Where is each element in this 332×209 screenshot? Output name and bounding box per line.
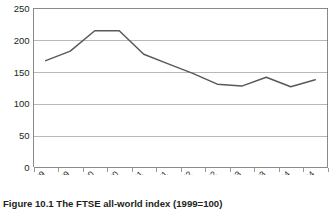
x-axis-tick-label: Jan 03 xyxy=(218,169,243,175)
y-axis-tick-labels: 050100150200250 xyxy=(14,3,30,173)
x-axis-tick-labels: Jan 99July 99Jan 00July 00Jan 01July 01J… xyxy=(22,169,317,175)
y-axis-tick-label: 200 xyxy=(14,35,30,46)
x-axis-tick-label: Jan 00 xyxy=(71,169,96,175)
x-axis-tick-label: Jan 04 xyxy=(267,169,292,175)
gridlines xyxy=(34,41,328,136)
figure-ftse-all-world-index: 050100150200250 Jan 99July 99Jan 00July … xyxy=(0,0,332,209)
x-axis-tick-label: Jan 01 xyxy=(120,169,145,175)
y-axis-tick-label: 150 xyxy=(14,67,30,78)
y-axis-tick-label: 0 xyxy=(24,162,29,173)
series-line-ftse-all-world-index xyxy=(46,31,316,87)
figure-caption: Figure 10.1 The FTSE all-world index (19… xyxy=(3,198,329,209)
x-axis-tick-label: Jan 02 xyxy=(169,169,194,175)
y-axis-tick-label: 250 xyxy=(14,3,30,14)
line-chart: 050100150200250 Jan 99July 99Jan 00July … xyxy=(0,0,332,175)
y-axis-tick-label: 100 xyxy=(14,98,30,109)
y-axis-tick-label: 50 xyxy=(19,130,30,141)
chart-plot-area: 050100150200250 Jan 99July 99Jan 00July … xyxy=(0,0,332,175)
